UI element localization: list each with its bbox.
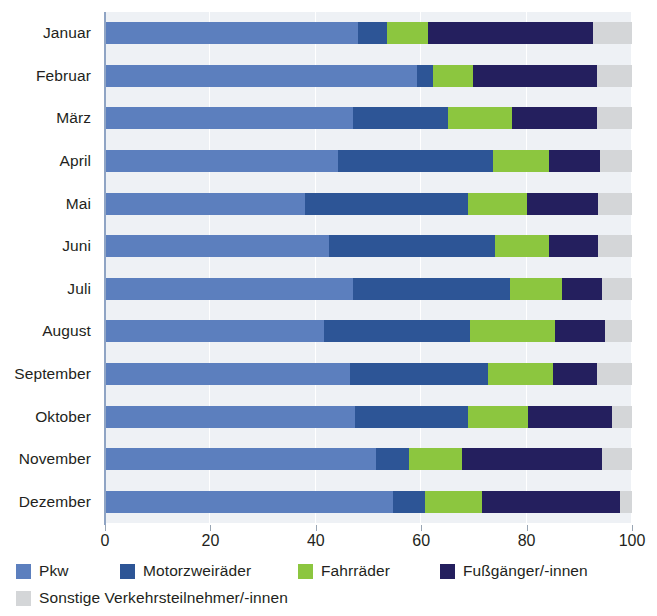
bar-segment — [597, 363, 632, 385]
gridline — [315, 12, 316, 523]
bar-segment — [105, 65, 417, 87]
legend-label: Fußgänger/-innen — [463, 562, 588, 580]
x-tick-mark — [210, 525, 211, 531]
bar-segment — [512, 107, 597, 129]
bar-segment — [425, 491, 482, 513]
legend-swatch-icon — [440, 564, 455, 579]
bar-row — [105, 150, 632, 172]
bar-segment — [598, 193, 632, 215]
legend-swatch-icon — [16, 591, 31, 606]
bar-segment — [355, 406, 468, 428]
bar-segment — [612, 406, 632, 428]
bar-segment — [528, 406, 612, 428]
bar-segment — [495, 235, 549, 257]
legend-label: Fahrräder — [321, 562, 390, 580]
gridline — [631, 12, 632, 523]
bar-row — [105, 448, 632, 470]
category-label: März — [56, 107, 91, 129]
bar-segment — [620, 491, 632, 513]
category-label: September — [14, 363, 91, 385]
bar-segment — [433, 65, 473, 87]
category-axis: JanuarFebruarMärzAprilMaiJuniJuliAugustS… — [0, 12, 98, 523]
bar-segment — [488, 363, 553, 385]
bar-segment — [549, 150, 600, 172]
bar-segment — [393, 491, 425, 513]
bar-segment — [338, 150, 493, 172]
legend-entry[interactable]: Sonstige Verkehrsteilnehmer/-innen — [16, 589, 288, 607]
bar-row — [105, 107, 632, 129]
x-tick-mark — [527, 525, 528, 531]
bar-segment — [358, 22, 387, 44]
bar-row — [105, 406, 632, 428]
bar-segment — [353, 278, 510, 300]
bar-segment — [105, 235, 329, 257]
bar-row — [105, 193, 632, 215]
gridline — [420, 12, 421, 523]
bar-segment — [602, 278, 632, 300]
category-label: Mai — [66, 193, 91, 215]
bar-segment — [105, 448, 376, 470]
category-label: November — [19, 448, 91, 470]
legend-entry[interactable]: Pkw — [16, 562, 69, 580]
legend-swatch-icon — [120, 564, 135, 579]
chart-legend: PkwMotorzweiräderFahrräderFußgänger/-inn… — [8, 562, 653, 612]
bar-segment — [448, 107, 512, 129]
bar-segment — [470, 320, 555, 342]
bar-segment — [597, 107, 632, 129]
x-tick-mark — [316, 525, 317, 531]
bar-segment — [105, 363, 350, 385]
bar-row — [105, 491, 632, 513]
bar-segment — [105, 150, 338, 172]
legend-swatch-icon — [298, 564, 313, 579]
bar-segment — [510, 278, 562, 300]
bar-row — [105, 65, 632, 87]
bar-segment — [387, 22, 428, 44]
x-tick-mark — [105, 525, 106, 531]
bar-segment — [468, 406, 528, 428]
bar-segment — [597, 65, 632, 87]
y-axis-spine — [104, 12, 106, 525]
x-tick-label: 100 — [619, 532, 646, 550]
category-label: April — [59, 150, 91, 172]
bar-segment — [105, 193, 305, 215]
stacked-bar-chart: JanuarFebruarMärzAprilMaiJuniJuliAugustS… — [0, 0, 657, 616]
bar-segment — [329, 235, 495, 257]
bar-row — [105, 235, 632, 257]
legend-label: Motorzweiräder — [143, 562, 251, 580]
category-label: August — [42, 320, 91, 342]
legend-label: Pkw — [39, 562, 69, 580]
bar-row — [105, 320, 632, 342]
gridline — [209, 12, 210, 523]
bar-segment — [593, 22, 632, 44]
x-axis: 020406080100 — [105, 525, 632, 555]
bar-segment — [553, 363, 597, 385]
category-label: Dezember — [19, 491, 91, 513]
bar-segment — [598, 235, 632, 257]
plot-area — [105, 12, 632, 523]
bar-segment — [376, 448, 409, 470]
bar-segment — [473, 65, 597, 87]
bar-segment — [105, 406, 355, 428]
bar-segment — [105, 491, 393, 513]
bar-segment — [493, 150, 549, 172]
bar-segment — [105, 320, 324, 342]
x-tick-label: 40 — [307, 532, 325, 550]
bar-segment — [555, 320, 605, 342]
category-label: Juni — [62, 235, 91, 257]
bar-segment — [428, 22, 593, 44]
x-tick-label: 60 — [412, 532, 430, 550]
plot-wrapper: JanuarFebruarMärzAprilMaiJuniJuliAugustS… — [0, 0, 657, 533]
bar-segment — [324, 320, 470, 342]
legend-entry[interactable]: Motorzweiräder — [120, 562, 251, 580]
legend-label: Sonstige Verkehrsteilnehmer/-innen — [39, 589, 288, 607]
bar-segment — [482, 491, 620, 513]
legend-entry[interactable]: Fahrräder — [298, 562, 390, 580]
bar-segment — [602, 448, 632, 470]
legend-entry[interactable]: Fußgänger/-innen — [440, 562, 588, 580]
category-label: Juli — [67, 278, 91, 300]
x-tick-label: 0 — [101, 532, 110, 550]
x-tick-mark — [632, 525, 633, 531]
bar-segment — [409, 448, 462, 470]
bar-segment — [462, 448, 602, 470]
x-tick-label: 20 — [201, 532, 219, 550]
